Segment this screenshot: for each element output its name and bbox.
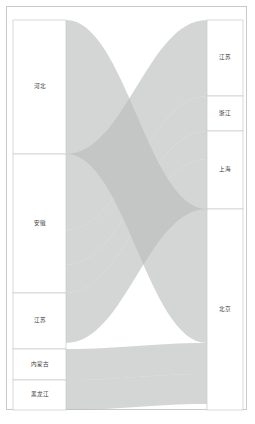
node-label-target-beijing: 北京 [219,305,231,313]
node-label-source-jiangsu_s: 江苏 [34,316,46,324]
node-label-target-zhejiang: 浙江 [219,109,231,117]
node-label-target-jiangsu_t: 江苏 [219,53,231,61]
node-label-target-shanghai: 上海 [219,165,231,173]
node-label-source-neimenggu: 内蒙古 [31,360,49,368]
links-layer [66,20,207,410]
sankey-diagram: 河北安徽江苏内蒙古黑龙江江苏浙江上海北京 [0,0,255,424]
node-label-source-hebei: 河北 [34,82,46,90]
chart-canvas: 河北安徽江苏内蒙古黑龙江江苏浙江上海北京 [0,0,255,424]
node-label-source-anhui: 安徽 [34,219,46,227]
node-label-source-heilongjiang: 黑龙江 [31,390,49,398]
